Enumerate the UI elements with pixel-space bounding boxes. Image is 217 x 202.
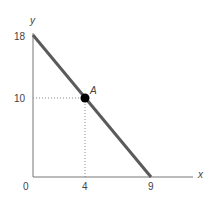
y-axis-label: y: [29, 15, 36, 26]
x-tick-9: 9: [148, 181, 154, 192]
y-tick-18: 18: [14, 31, 26, 42]
data-line: [33, 35, 151, 177]
x-axis-label: x: [197, 169, 204, 180]
point-a-marker: [81, 94, 90, 103]
y-tick-10: 10: [14, 93, 26, 104]
point-a-label: A: [89, 85, 97, 96]
line-chart: y x 0 18 10 4 9 A: [0, 0, 217, 202]
x-tick-4: 4: [82, 181, 88, 192]
origin-label: 0: [23, 181, 29, 192]
